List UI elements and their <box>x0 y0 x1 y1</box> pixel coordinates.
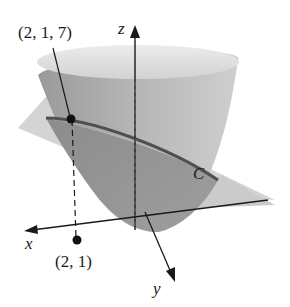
x-axis-label: x <box>25 235 33 252</box>
y-axis-label: y <box>153 280 161 297</box>
paraboloid-figure: (2, 1, 7) z C x (2, 1) y <box>0 0 290 307</box>
curve-c-label: C <box>193 165 204 182</box>
point-2d-marker <box>73 236 82 245</box>
point-2d-label: (2, 1) <box>55 253 92 270</box>
point-3d-marker <box>67 115 76 124</box>
figure-graphics <box>0 0 290 307</box>
z-axis-label: z <box>118 20 125 37</box>
x-axis-arrow-icon <box>24 225 38 234</box>
point-3d-label: (2, 1, 7) <box>18 24 72 41</box>
y-axis-arrow-icon <box>166 267 175 282</box>
z-axis-arrow-icon <box>130 25 140 38</box>
paraboloid-rim <box>37 45 239 79</box>
